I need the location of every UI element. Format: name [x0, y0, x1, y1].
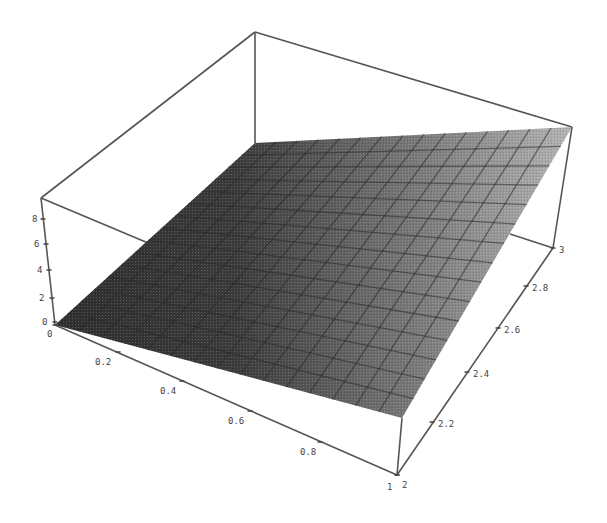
x-axis-tick-label: 0.8 — [300, 447, 316, 457]
z-axis-tick-label: 2 — [39, 293, 44, 303]
y-axis-tick-label: 2.6 — [504, 325, 520, 335]
surface-plot: 00.20.40.60.8122.22.42.62.8386420 — [0, 0, 607, 523]
y-axis-tick-label: 2 — [402, 480, 407, 490]
box-edge-front-vertical — [397, 418, 402, 475]
box-edge-bottom-back — [510, 234, 553, 248]
z-axis-tick-label: 4 — [37, 265, 42, 275]
y-axis-tick-label: 2.8 — [532, 283, 548, 293]
x-axis-tick-label: 1 — [387, 482, 392, 492]
box-edge-top-front — [41, 198, 160, 248]
x-axis-tick-label: 0 — [47, 329, 52, 339]
surface — [55, 127, 572, 418]
x-axis-tick-label: 0.6 — [228, 416, 244, 426]
y-axis-tick-label: 3 — [559, 245, 564, 255]
box-edge-top-back — [255, 32, 572, 127]
x-axis-tick-label: 0.4 — [160, 386, 176, 396]
z-axis-tick-label: 8 — [32, 214, 37, 224]
y-axis-tick-label: 2.4 — [473, 369, 489, 379]
z-axis-tick-label: 0 — [42, 317, 47, 327]
z-axis-line — [41, 198, 55, 325]
y-axis-tick-label: 2.2 — [438, 419, 454, 429]
x-axis-tick-label: 0.2 — [95, 357, 111, 367]
z-axis-tick-label: 6 — [34, 239, 39, 249]
